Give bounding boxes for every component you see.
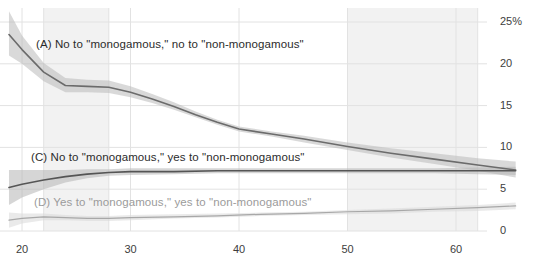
shaded-band-1 (348, 8, 478, 231)
line-chart-plot (0, 0, 554, 266)
chart-container: (A) No to "monogamous," no to "non-monog… (0, 0, 554, 266)
shaded-band-0 (44, 8, 109, 231)
